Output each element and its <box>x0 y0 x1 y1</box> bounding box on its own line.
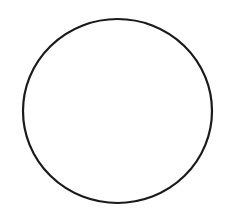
circle-outline <box>23 19 212 203</box>
circle-diagram <box>0 0 228 222</box>
diagram-canvas <box>0 0 228 222</box>
